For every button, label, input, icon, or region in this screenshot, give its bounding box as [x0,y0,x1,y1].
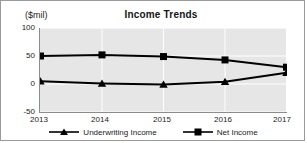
y-axis-label: ($mil) [25,10,48,20]
chart-title: Income Trends [96,9,226,20]
legend-item-underwriting-income: Underwriting Income [49,127,156,137]
legend-item-net-income: Net Income [183,127,258,137]
x-tick-label-2015: 2015 [142,115,182,124]
square-marker-icon [183,127,213,137]
data-point-marker [40,53,44,60]
legend-label-net-income: Net Income [217,128,258,137]
plot-svg [40,28,287,112]
data-point-marker [283,64,287,71]
x-tick-label-2016: 2016 [203,115,243,124]
data-point-marker [222,56,229,63]
data-point-marker [99,51,106,58]
x-tick-label-2014: 2014 [80,115,120,124]
y-tick-label-50: 50 [3,51,35,60]
plot-area [39,28,287,113]
x-tick-label-2017: 2017 [262,115,302,124]
triangle-marker-icon [49,127,79,137]
y-tick-label-100: 100 [3,23,35,32]
gridlines [40,28,287,112]
data-point-marker [160,53,167,60]
y-tick-label-0: 0 [3,79,35,88]
chart-legend: Underwriting Income Net Income [1,127,306,137]
x-tick-label-2013: 2013 [19,115,59,124]
chart-container: Income Trends ($mil) 100 50 0 -50 2013 2… [0,0,305,141]
legend-label-underwriting-income: Underwriting Income [83,128,156,137]
